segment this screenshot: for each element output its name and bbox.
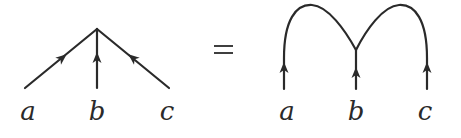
label-b-right: b xyxy=(348,98,365,124)
arc-left xyxy=(284,5,356,89)
label-c-left: c xyxy=(160,98,175,124)
label-c-right: c xyxy=(418,98,433,124)
right-arc-diagram xyxy=(284,5,427,89)
label-b-left: b xyxy=(89,98,106,124)
diagram-canvas xyxy=(0,0,461,138)
equals-sign xyxy=(214,46,233,53)
label-a-right: a xyxy=(279,98,295,124)
label-a-left: a xyxy=(20,98,36,124)
arc-right xyxy=(356,5,427,89)
